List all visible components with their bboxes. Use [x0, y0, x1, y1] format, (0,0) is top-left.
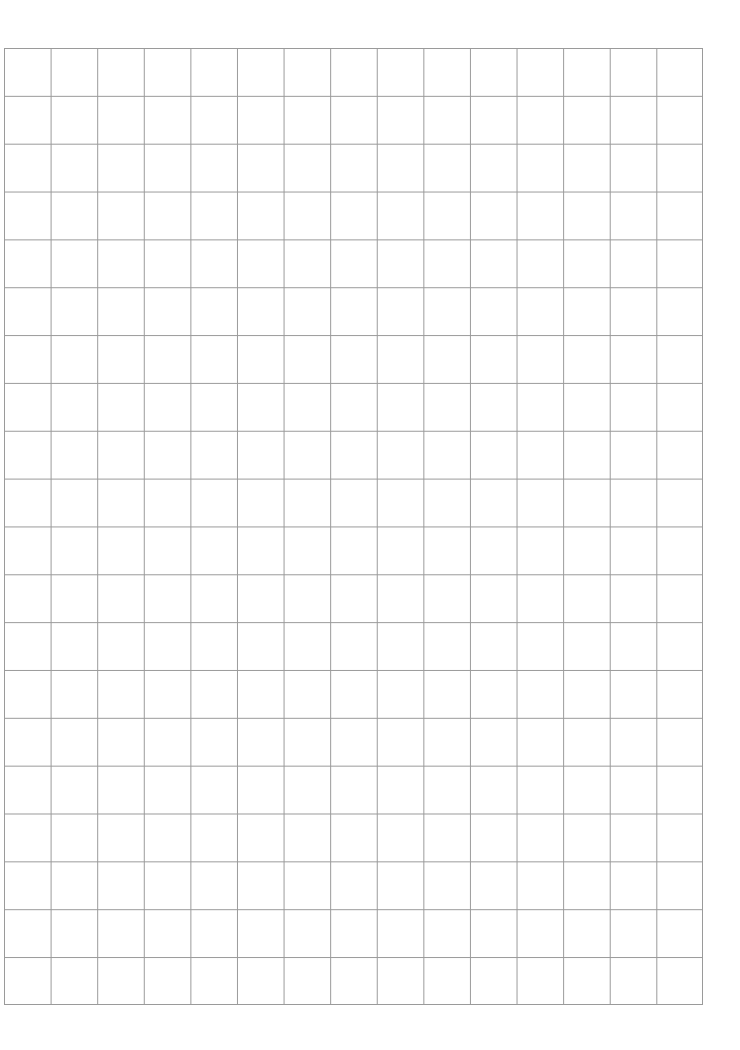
grid-paper	[4, 48, 703, 1005]
